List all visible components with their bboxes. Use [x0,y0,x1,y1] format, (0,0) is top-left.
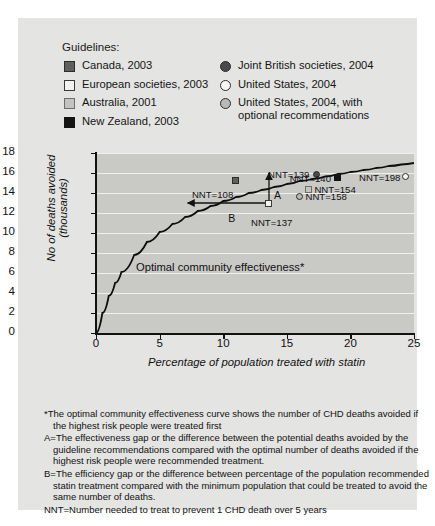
x-axis-label: Percentage of population treated with st… [148,356,365,368]
legend-item-united-states-optional: United States, 2004, with optional recom… [220,96,374,123]
legend-marker-square-icon [64,61,75,72]
legend-label: United States, 2004, with optional recom… [238,96,369,122]
gap-annotation-label: B [228,212,235,224]
y-tick-mark [91,153,96,154]
footnote-a: A=The effectiveness gap or the differenc… [44,432,432,467]
data-point-marker-icon [296,193,303,200]
y-tick-mark [91,253,96,254]
data-point-marker-icon [334,174,341,181]
footnotes: *The optimal community effectiveness cur… [44,408,432,516]
footnote-asterisk: *The optimal community effectiveness cur… [44,408,432,431]
y-tick-label: 6 [0,265,15,277]
legend-label: Canada, 2003 [82,59,152,72]
y-tick-mark [91,173,96,174]
x-tick-mark [414,334,415,339]
legend-marker-circle-icon [220,80,231,91]
data-point-marker-icon [265,200,272,207]
legend-item-new-zealand: New Zealand, 2003 [64,115,208,130]
legend-item-australia: Australia, 2001 [64,96,208,111]
data-point-label: NNT=140 [290,173,331,184]
y-tick-mark [91,193,96,194]
y-axis [95,152,97,334]
data-point-label: NNT=108 [192,189,233,200]
curve-annotation-label: Optimal community effectiveness* [136,261,304,273]
legend-label: European societies, 2003 [82,78,208,91]
x-tick-mark [223,334,224,339]
legend-marker-circle-icon [220,61,231,72]
x-tick-mark [350,334,351,339]
legend-item-european-societies: European societies, 2003 [64,78,208,93]
y-tick-label: 18 [0,145,15,157]
legend-marker-square-icon [64,80,75,91]
y-tick-mark [91,293,96,294]
legend-label: United States, 2004 [238,78,336,91]
y-tick-label: 14 [0,185,15,197]
data-point-marker-icon [402,173,409,180]
legend-item-united-states: United States, 2004 [220,78,374,93]
legend-title: Guidelines: [62,41,120,53]
legend-label: Australia, 2001 [82,96,157,109]
y-tick-label: 2 [0,305,15,317]
y-tick-mark [91,213,96,214]
legend-item-joint-british-societies: Joint British societies, 2004 [220,59,374,74]
legend-marker-square-icon [64,117,75,128]
x-tick-mark [287,334,288,339]
y-tick-label: 4 [0,285,15,297]
x-tick-mark [160,334,161,339]
data-point-label: NNT=158 [306,191,347,202]
legend: Guidelines: Canada, 2003 European societ… [62,41,407,131]
data-point-marker-icon [232,177,239,184]
legend-column-right: Joint British societies, 2004 United Sta… [220,59,374,127]
y-tick-label: 16 [0,165,15,177]
legend-label: New Zealand, 2003 [82,115,179,128]
y-tick-label: 8 [0,245,15,257]
footnote-b: B=The efficiency gap or the difference b… [44,468,432,503]
x-tick-mark [96,334,97,339]
legend-item-canada: Canada, 2003 [64,59,208,74]
gap-annotation-label: A [274,189,281,201]
x-axis [95,333,415,335]
data-point-label: NNT=137 [251,217,292,228]
legend-column-left: Canada, 2003 European societies, 2003 Au… [64,59,208,133]
y-tick-mark [91,313,96,314]
legend-marker-circle-icon [220,98,231,109]
y-tick-mark [91,233,96,234]
y-tick-label: 10 [0,225,15,237]
y-tick-mark [91,273,96,274]
data-point-label: NNT=198 [359,172,400,183]
legend-marker-square-icon [64,98,75,109]
legend-label: Joint British societies, 2004 [238,59,374,72]
y-tick-label: 12 [0,205,15,217]
footnote-nnt: NNT=Number needed to treat to prevent 1 … [44,504,432,516]
y-axis-label: No of deaths avoided (thousands) [45,133,69,283]
y-tick-label: 0 [0,325,15,337]
figure-panel: Guidelines: Canada, 2003 European societ… [18,18,417,510]
